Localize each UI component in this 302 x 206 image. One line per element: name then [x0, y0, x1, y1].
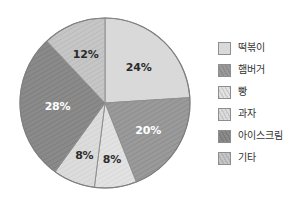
legend-label-5: 기타: [238, 152, 256, 164]
pie-slice: [105, 18, 190, 103]
legend-item-0: 떡볶이: [218, 38, 302, 58]
color-swatch-icon: [218, 152, 231, 165]
pie-svg: [0, 0, 212, 206]
pie-chart-figure: 24% 20% 8% 8% 28% 12% 떡볶이 햄버거 빵 과자 아이스크림: [0, 0, 302, 206]
legend-label-1: 햄버거: [238, 64, 265, 76]
legend-label-0: 떡볶이: [238, 42, 265, 54]
pie-plot-area: 24% 20% 8% 8% 28% 12%: [0, 0, 212, 206]
legend-item-1: 햄버거: [218, 60, 302, 80]
legend-item-4: 아이스크림: [218, 126, 302, 146]
color-swatch-icon: [218, 86, 231, 99]
color-swatch-icon: [218, 42, 231, 55]
color-swatch-icon: [218, 130, 231, 143]
chart-legend: 떡볶이 햄버거 빵 과자 아이스크림 기타: [218, 38, 302, 170]
legend-item-2: 빵: [218, 82, 302, 102]
legend-item-5: 기타: [218, 148, 302, 168]
pie-slices-group: [20, 18, 190, 188]
legend-item-3: 과자: [218, 104, 302, 124]
legend-label-3: 과자: [238, 108, 256, 120]
legend-label-2: 빵: [238, 86, 247, 98]
color-swatch-icon: [218, 108, 231, 121]
color-swatch-icon: [218, 64, 231, 77]
legend-label-4: 아이스크림: [238, 130, 283, 142]
